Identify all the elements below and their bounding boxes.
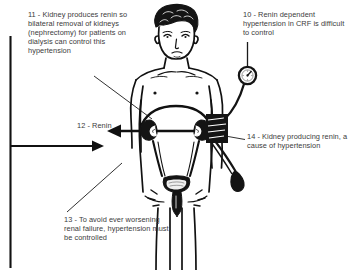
annotation-label-11: 11 - Kidney produces renin so bilateral …: [28, 10, 132, 55]
annotation-label-12: 12 - Renin: [77, 121, 137, 130]
left-kidney: [140, 120, 157, 140]
leader-line-13: [67, 163, 122, 212]
annotation-label-10: 10 - Renin dependent hypertension in CRF…: [243, 10, 351, 37]
annotation-label-13: 13 - To avoid ever worsening renal failu…: [64, 215, 172, 242]
annotation-label-14: 14 - Kidney producing renin, a cause of …: [247, 132, 351, 150]
leader-line-11: [94, 76, 152, 119]
frame-flow-arrow: [10, 141, 104, 152]
blood-pressure-apparatus: [206, 67, 256, 192]
inflation-bulb: [231, 171, 244, 191]
pressure-gauge: [239, 67, 256, 84]
diagram-canvas: 11 - Kidney produces renin so bilateral …: [0, 0, 354, 270]
